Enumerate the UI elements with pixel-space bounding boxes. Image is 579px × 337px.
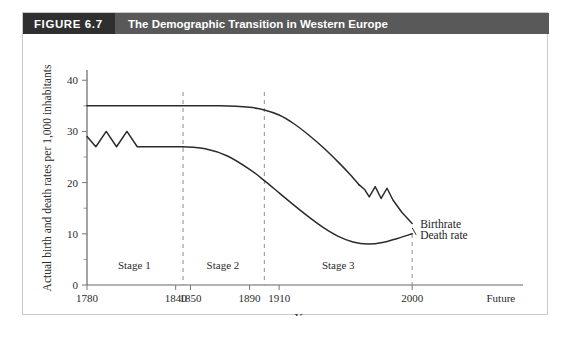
y-axis-title: Actual birth and death rates per 1,000 i…: [41, 64, 54, 291]
x-tick-label: 1910: [268, 292, 291, 304]
curve-death-rate: [183, 147, 412, 244]
stage-label: Stage 1: [118, 259, 151, 271]
y-axis-ticks: 010203040: [67, 74, 87, 291]
stage-divider-lines: [183, 92, 412, 285]
demographic-transition-chart: 010203040 178018401850189019102000Future…: [23, 34, 549, 316]
figure-page: FIGURE 6.7 The Demographic Transition in…: [0, 0, 579, 337]
y-tick-label: 10: [67, 228, 79, 240]
y-tick-label: 40: [67, 74, 79, 86]
death-rate-series-label: Death rate: [420, 229, 468, 241]
x-tick-label: 2000: [401, 292, 424, 304]
y-tick-label: 30: [67, 125, 79, 137]
figure-frame: FIGURE 6.7 The Demographic Transition in…: [22, 12, 548, 315]
y-tick-label: 0: [73, 279, 79, 291]
figure-title: The Demographic Transition in Western Eu…: [128, 13, 388, 34]
x-tick-label: 1850: [179, 292, 202, 304]
figure-header-bar: FIGURE 6.7 The Demographic Transition in…: [23, 13, 549, 34]
x-tick-label: 1890: [239, 292, 262, 304]
curve-death-rate-early: [87, 131, 183, 146]
data-curves: [87, 106, 412, 244]
x-tick-label: 1780: [76, 292, 99, 304]
series-labels: BirthrateDeath rate: [412, 218, 468, 241]
curve-birthrate: [87, 106, 359, 185]
x-axis-ticks: 178018401850189019102000Future: [76, 285, 515, 304]
x-axis-title: Year: [294, 312, 315, 316]
y-tick-label: 20: [67, 177, 79, 189]
figure-number-label: FIGURE 6.7: [23, 13, 115, 34]
chart-plot-area: 010203040 178018401850189019102000Future…: [23, 34, 549, 316]
curve-birthrate-late: [359, 185, 412, 224]
stage-label: Stage 3: [322, 259, 355, 271]
stage-annotations: Stage 1Stage 2Stage 3: [118, 259, 355, 271]
x-tick-label: Future: [486, 292, 515, 304]
birthrate-series-label: Birthrate: [420, 218, 461, 230]
stage-label: Stage 2: [207, 259, 240, 271]
axes-group: [87, 70, 523, 285]
